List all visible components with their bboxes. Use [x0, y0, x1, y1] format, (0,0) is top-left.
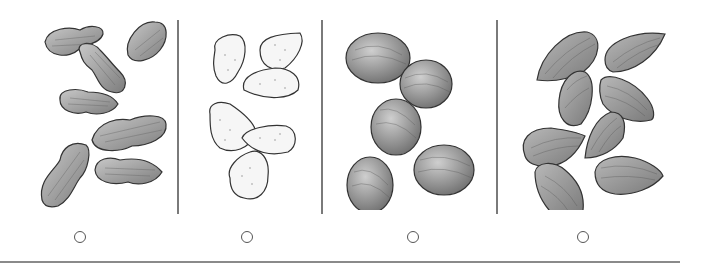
option-d-radio[interactable] [577, 231, 589, 243]
bottom-rule [0, 261, 680, 263]
option-divider-2 [321, 20, 323, 214]
option-c-radio[interactable] [407, 231, 419, 243]
option-divider-3 [496, 20, 498, 214]
option-d-image-almonds [505, 0, 685, 210]
option-b-radio[interactable] [241, 231, 253, 243]
option-a-image-peanuts [0, 0, 180, 210]
option-divider-1 [177, 20, 179, 214]
option-c-image-hazelnuts [330, 0, 505, 210]
option-a-radio[interactable] [74, 231, 86, 243]
option-b-image-blanched-almonds [180, 0, 330, 210]
